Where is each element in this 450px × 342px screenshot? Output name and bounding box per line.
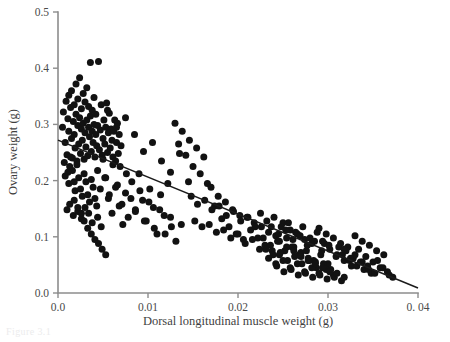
data-point [208, 184, 215, 191]
x-tick-label: 0.0 [51, 301, 66, 313]
data-point [215, 193, 222, 200]
x-tick-label: 0.03 [318, 301, 338, 313]
data-point [98, 223, 105, 230]
data-point [88, 176, 95, 183]
data-point [71, 178, 78, 185]
data-point [81, 170, 88, 177]
data-point [71, 131, 78, 138]
data-point [330, 234, 337, 241]
data-point [280, 268, 287, 275]
data-point [131, 131, 138, 138]
figure-caption-stub: Figure 3.1 [6, 326, 51, 337]
data-point [74, 96, 81, 103]
data-point [323, 230, 330, 237]
data-point [145, 198, 152, 205]
data-point [84, 191, 91, 198]
data-point [76, 74, 83, 81]
data-point [260, 234, 267, 241]
y-tick-label: 0.1 [35, 231, 50, 243]
data-point [67, 153, 74, 160]
data-point [309, 274, 316, 281]
data-point [114, 182, 121, 189]
data-point [182, 152, 189, 159]
data-point [161, 212, 168, 219]
data-point [167, 214, 174, 221]
data-point [139, 197, 146, 204]
data-point [294, 260, 301, 267]
data-point [125, 214, 132, 221]
data-point [341, 246, 348, 253]
data-point [280, 257, 287, 264]
axes [58, 12, 418, 293]
x-tick-label: 0.02 [228, 301, 248, 313]
data-point [157, 191, 164, 198]
data-point [64, 169, 71, 176]
data-point [162, 230, 169, 237]
data-point [107, 145, 114, 152]
data-point [90, 184, 97, 191]
data-point [302, 270, 309, 277]
data-point [158, 157, 165, 164]
data-point [334, 270, 341, 277]
data-point [151, 225, 158, 232]
data-point [89, 219, 96, 226]
data-point [127, 195, 134, 202]
data-point [141, 218, 148, 225]
data-point [167, 169, 174, 176]
y-tick-label: 0.5 [35, 6, 50, 18]
data-point [206, 221, 213, 228]
data-point [359, 238, 366, 245]
data-point [122, 114, 129, 121]
data-point [256, 246, 263, 253]
data-point [146, 186, 153, 193]
data-point [63, 98, 70, 105]
plot-canvas: 0.00.010.020.030. 04 0.00.10.20.30.40.5 … [0, 0, 450, 342]
data-point [326, 268, 333, 275]
data-point [197, 170, 204, 177]
data-point [374, 257, 381, 264]
data-point [252, 223, 259, 230]
data-point [222, 198, 229, 205]
data-point [102, 251, 109, 258]
data-point [73, 80, 80, 87]
data-point [118, 142, 125, 149]
data-point [186, 137, 193, 144]
data-point [83, 84, 90, 91]
data-point [78, 105, 85, 112]
x-axis-title: Dorsal longitudinal muscle weight (g) [143, 314, 333, 328]
data-point [94, 167, 101, 174]
data-point [116, 131, 123, 138]
y-tick-label: 0.0 [35, 287, 50, 299]
data-point [175, 141, 182, 148]
data-point [68, 87, 75, 94]
data-point [59, 124, 66, 131]
data-point [257, 210, 264, 217]
x-tick-label: 0. 04 [407, 301, 430, 313]
data-point [71, 197, 78, 204]
data-point [380, 251, 387, 258]
data-point [100, 116, 107, 123]
data-point [273, 263, 280, 270]
x-tick-labels: 0.00.010.020.030. 04 [51, 301, 430, 313]
data-point [132, 208, 139, 215]
data-point [103, 100, 110, 107]
data-point [179, 128, 186, 135]
data-point [262, 246, 269, 253]
data-point [91, 195, 98, 202]
data-point [223, 212, 230, 219]
data-point [150, 204, 157, 211]
data-point [299, 223, 306, 230]
data-point [341, 274, 348, 281]
data-point [82, 143, 89, 150]
data-point [200, 153, 207, 160]
data-point [194, 201, 201, 208]
data-point [235, 230, 242, 237]
data-point [314, 229, 321, 236]
data-point [283, 243, 290, 250]
data-point [87, 59, 94, 66]
data-point [265, 255, 272, 262]
data-point [312, 260, 319, 267]
data-point [156, 206, 163, 213]
data-point [118, 201, 125, 208]
data-point [74, 204, 81, 211]
